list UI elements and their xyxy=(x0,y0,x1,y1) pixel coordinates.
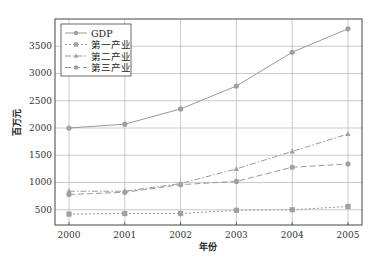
x-tick-label: 2003 xyxy=(225,230,248,240)
x-axis-label: 年份 xyxy=(199,241,218,252)
legend-label: GDP xyxy=(91,28,113,39)
series-第三产业 xyxy=(66,161,350,197)
y-tick-label: 1000 xyxy=(29,177,52,187)
y-tick-label: 1500 xyxy=(29,150,52,160)
legend-label: 第一产业 xyxy=(91,39,131,50)
legend: GDP第一产业第二产业第三产业 xyxy=(61,24,131,76)
y-tick-label: 3500 xyxy=(29,41,52,51)
line-chart: 200020012002200320042005 500100015002000… xyxy=(0,0,379,266)
series-第二产业 xyxy=(66,131,350,193)
x-tick-label: 2000 xyxy=(58,230,81,240)
y-axis-label: 百万元 xyxy=(12,109,22,136)
x-tick-label: 2001 xyxy=(113,230,136,240)
y-tick-label: 500 xyxy=(35,205,52,215)
y-tick-label: 2500 xyxy=(29,96,52,106)
legend-label: 第三产业 xyxy=(91,62,131,73)
y-tick-label: 3000 xyxy=(29,68,52,78)
x-tick-label: 2002 xyxy=(169,230,192,240)
x-tick-label: 2005 xyxy=(337,230,360,240)
x-tick-label: 2004 xyxy=(281,230,304,240)
legend-label: 第二产业 xyxy=(91,51,131,62)
y-axis-ticks: 500100015002000250030003500 xyxy=(29,41,52,214)
y-tick-label: 2000 xyxy=(29,123,52,133)
series-第一产业 xyxy=(66,204,350,217)
